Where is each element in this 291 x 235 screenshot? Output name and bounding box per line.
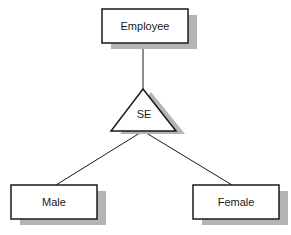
specialization-triangle[interactable]: SE (111, 89, 185, 134)
entity-label: Female (218, 196, 255, 208)
entity-employee[interactable]: Employee (102, 9, 197, 49)
entity-label: Employee (121, 20, 170, 32)
connector-se-female (143, 131, 232, 185)
entity-label: Male (42, 196, 66, 208)
connector-se-male (56, 131, 143, 185)
entity-female[interactable]: Female (193, 185, 288, 225)
diagram-canvas: Employee SE Male Female (0, 0, 291, 235)
entity-male[interactable]: Male (11, 185, 106, 225)
specialization-label: SE (137, 108, 152, 120)
